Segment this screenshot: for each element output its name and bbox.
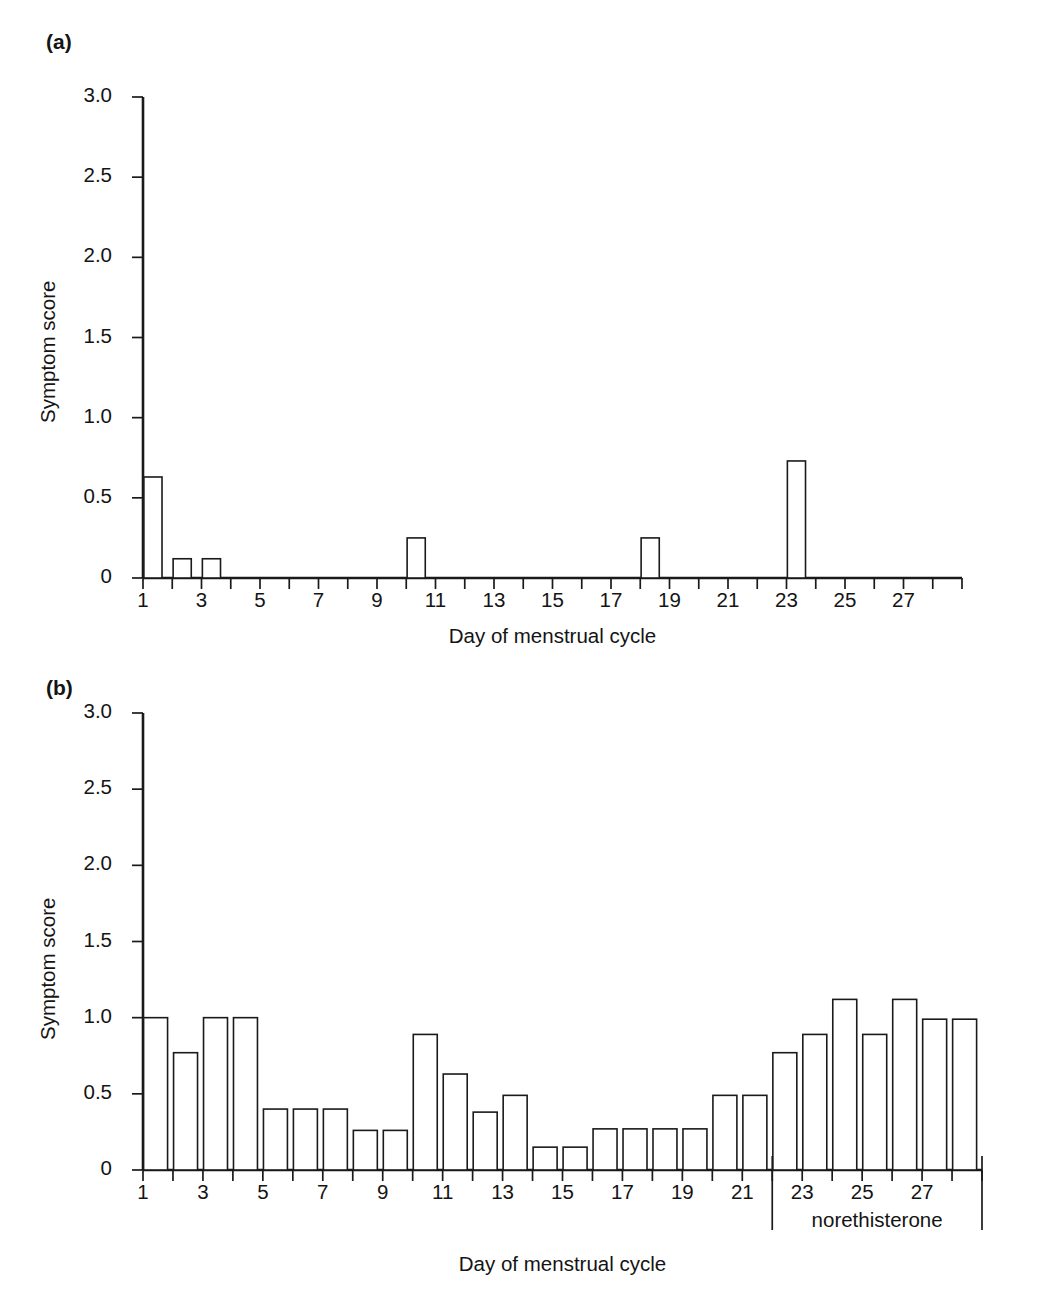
x-axis-title: Day of menstrual cycle	[253, 624, 853, 648]
x-axis-tick-label: 27	[874, 588, 934, 612]
bar-day-23	[787, 461, 805, 578]
bar-day-3	[204, 1018, 228, 1170]
bar-day-3	[202, 559, 220, 578]
bar-day-28	[953, 1019, 977, 1170]
x-axis-tick-label: 5	[230, 588, 290, 612]
bar-day-10	[413, 1034, 437, 1170]
bar-day-14	[533, 1147, 557, 1170]
x-axis-tick-label: 3	[173, 1180, 233, 1204]
x-axis-tick-label: 23	[757, 588, 817, 612]
y-axis-title: Symptom score	[36, 281, 60, 423]
x-axis-tick-label: 23	[772, 1180, 832, 1204]
panel-a-plot-area	[0, 0, 1038, 660]
y-axis-tick-label: 3.0	[32, 699, 112, 723]
y-axis-title: Symptom score	[36, 898, 60, 1040]
bar-day-12	[473, 1112, 497, 1170]
y-axis-tick-label: 0.5	[32, 484, 112, 508]
bar-day-2	[173, 559, 191, 578]
bar-day-18	[653, 1129, 677, 1170]
x-axis-tick-label: 17	[581, 588, 641, 612]
bar-day-23	[803, 1034, 827, 1170]
chart-panel-a: (a) 00.51.01.52.02.53.0Symptom score1357…	[0, 0, 1038, 660]
x-axis-tick-label: 11	[413, 1180, 473, 1204]
y-axis-tick-label: 2.5	[32, 775, 112, 799]
x-axis-tick-label: 19	[640, 588, 700, 612]
x-axis-tick-label: 1	[113, 588, 173, 612]
x-axis-tick-label: 15	[533, 1180, 593, 1204]
bar-day-9	[383, 1130, 407, 1170]
x-axis-tick-label: 11	[406, 588, 466, 612]
x-axis-tick-label: 25	[832, 1180, 892, 1204]
bar-day-1	[144, 1018, 168, 1170]
x-axis-tick-label: 25	[815, 588, 875, 612]
bar-day-6	[293, 1109, 317, 1170]
y-axis-tick-label: 3.0	[32, 83, 112, 107]
x-axis-tick-label: 9	[353, 1180, 413, 1204]
bar-day-15	[563, 1147, 587, 1170]
y-axis-tick-label: 2.5	[32, 163, 112, 187]
bar-day-1	[144, 477, 162, 578]
x-axis-tick-label: 7	[293, 1180, 353, 1204]
bar-day-24	[833, 999, 857, 1170]
x-axis-tick-label: 3	[172, 588, 232, 612]
x-axis-tick-label: 21	[712, 1180, 772, 1204]
x-axis-tick-label: 5	[233, 1180, 293, 1204]
x-axis-tick-label: 9	[347, 588, 407, 612]
bar-day-22	[773, 1053, 797, 1170]
bar-day-11	[443, 1074, 467, 1170]
bar-day-17	[623, 1129, 647, 1170]
bar-day-5	[263, 1109, 287, 1170]
bar-day-7	[323, 1109, 347, 1170]
bar-day-8	[353, 1130, 377, 1170]
bar-day-2	[174, 1053, 198, 1170]
bar-day-16	[593, 1129, 617, 1170]
bar-day-19	[683, 1129, 707, 1170]
bar-day-13	[503, 1095, 527, 1170]
y-axis-tick-label: 2.0	[32, 851, 112, 875]
x-axis-tick-label: 19	[652, 1180, 712, 1204]
y-axis-tick-label: 0	[32, 564, 112, 588]
x-axis-tick-label: 13	[464, 588, 524, 612]
chart-panel-b: (b) 00.51.01.52.02.53.0Symptom score1357…	[0, 660, 1038, 1297]
x-axis-tick-label: 7	[289, 588, 349, 612]
bar-day-20	[713, 1095, 737, 1170]
bar-day-21	[743, 1095, 767, 1170]
x-axis-tick-label: 1	[113, 1180, 173, 1204]
x-axis-tick-label: 13	[473, 1180, 533, 1204]
bar-day-18	[641, 538, 659, 578]
norethisterone-label: norethisterone	[727, 1208, 1027, 1232]
x-axis-tick-label: 17	[592, 1180, 652, 1204]
bar-day-4	[233, 1018, 257, 1170]
y-axis-tick-label: 0	[32, 1156, 112, 1180]
bar-day-25	[863, 1034, 887, 1170]
y-axis-tick-label: 0.5	[32, 1080, 112, 1104]
x-axis-tick-label: 15	[523, 588, 583, 612]
figure-symptom-score-menstrual-cycle: (a) 00.51.01.52.02.53.0Symptom score1357…	[0, 0, 1038, 1297]
x-axis-tick-label: 21	[698, 588, 758, 612]
bar-day-27	[923, 1019, 947, 1170]
bar-day-26	[893, 999, 917, 1170]
y-axis-tick-label: 2.0	[32, 243, 112, 267]
x-axis-title: Day of menstrual cycle	[263, 1252, 863, 1276]
x-axis-tick-label: 27	[892, 1180, 952, 1204]
bar-day-10	[407, 538, 425, 578]
